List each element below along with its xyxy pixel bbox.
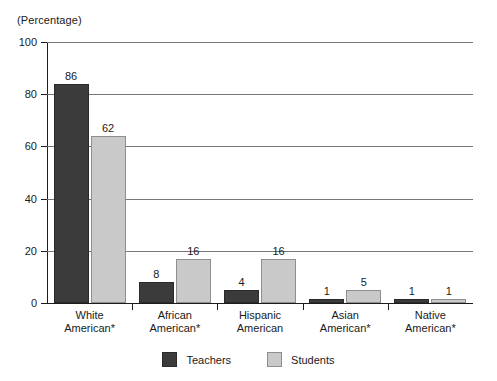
- y-tick-label: 100: [19, 36, 37, 48]
- y-tick-label: 60: [25, 140, 37, 152]
- y-tick-label: 20: [25, 245, 37, 257]
- y-tick-label: 0: [31, 297, 37, 309]
- y-tick-mark: [41, 146, 47, 147]
- x-category-label-line: Asian: [320, 309, 371, 322]
- axis-baseline: [47, 303, 473, 304]
- bar-value-label: 1: [324, 285, 330, 297]
- y-tick-mark: [41, 199, 47, 200]
- x-category-label-line: Native: [405, 309, 456, 322]
- x-category-label-line: Hispanic: [237, 309, 283, 322]
- x-category-label-2: HispanicAmerican: [237, 309, 283, 335]
- bar-value-label: 1: [409, 285, 415, 297]
- y-tick-label: 40: [25, 193, 37, 205]
- bar-value-label: 8: [153, 268, 159, 280]
- x-category-label-1: AfricanAmerican*: [149, 309, 200, 335]
- group-separator-tick: [388, 303, 389, 310]
- bar-students-1: 16: [176, 259, 211, 303]
- y-axis-caption: (Percentage): [17, 14, 82, 26]
- x-category-label-4: NativeAmerican*: [405, 309, 456, 335]
- x-category-label-3: AsianAmerican*: [320, 309, 371, 335]
- y-tick-mark: [41, 42, 47, 43]
- y-tick-mark: [41, 94, 47, 95]
- legend-label: Students: [291, 354, 334, 366]
- x-category-label-line: White: [64, 309, 115, 322]
- bar-teachers-1: 8: [139, 282, 174, 303]
- group-separator-tick: [303, 303, 304, 310]
- bar-value-label: 1: [446, 285, 452, 297]
- x-category-label-line: African: [149, 309, 200, 322]
- legend-swatch-students: [267, 352, 282, 367]
- y-tick-mark: [41, 251, 47, 252]
- plot-area: 020406080100 86628164161511: [47, 42, 473, 303]
- x-category-label-line: American*: [64, 322, 115, 335]
- bar-teachers-4: 1: [394, 299, 429, 303]
- bar-students-3: 5: [346, 290, 381, 303]
- group-separator-tick: [217, 303, 218, 310]
- x-category-label-line: American*: [149, 322, 200, 335]
- legend-item-students[interactable]: Students: [267, 352, 334, 367]
- bar-value-label: 86: [65, 70, 77, 82]
- legend-label: Teachers: [186, 354, 231, 366]
- legend-swatch-teachers: [162, 352, 177, 367]
- x-category-label-line: American*: [405, 322, 456, 335]
- bar-value-label: 4: [238, 276, 244, 288]
- group-separator-tick: [132, 303, 133, 310]
- y-tick-label: 80: [25, 88, 37, 100]
- bar-value-label: 5: [361, 276, 367, 288]
- bar-chart: (Percentage) 020406080100 86628164161511…: [0, 0, 497, 381]
- bar-teachers-0: 86: [54, 84, 89, 303]
- legend-item-teachers[interactable]: Teachers: [162, 352, 231, 367]
- y-tick-mark: [41, 303, 47, 304]
- x-category-label-line: American: [237, 322, 283, 335]
- bar-students-4: 1: [431, 299, 466, 303]
- gridline-100: [47, 42, 473, 43]
- x-category-label-line: American*: [320, 322, 371, 335]
- bar-students-2: 16: [261, 259, 296, 303]
- bar-value-label: 16: [187, 245, 199, 257]
- bar-teachers-3: 1: [309, 299, 344, 303]
- x-category-label-0: WhiteAmerican*: [64, 309, 115, 335]
- bar-students-0: 62: [91, 136, 126, 303]
- bar-teachers-2: 4: [224, 290, 259, 303]
- chart-legend: TeachersStudents: [0, 352, 497, 367]
- bar-value-label: 62: [102, 122, 114, 134]
- gridline-80: [47, 94, 473, 95]
- bar-value-label: 16: [272, 245, 284, 257]
